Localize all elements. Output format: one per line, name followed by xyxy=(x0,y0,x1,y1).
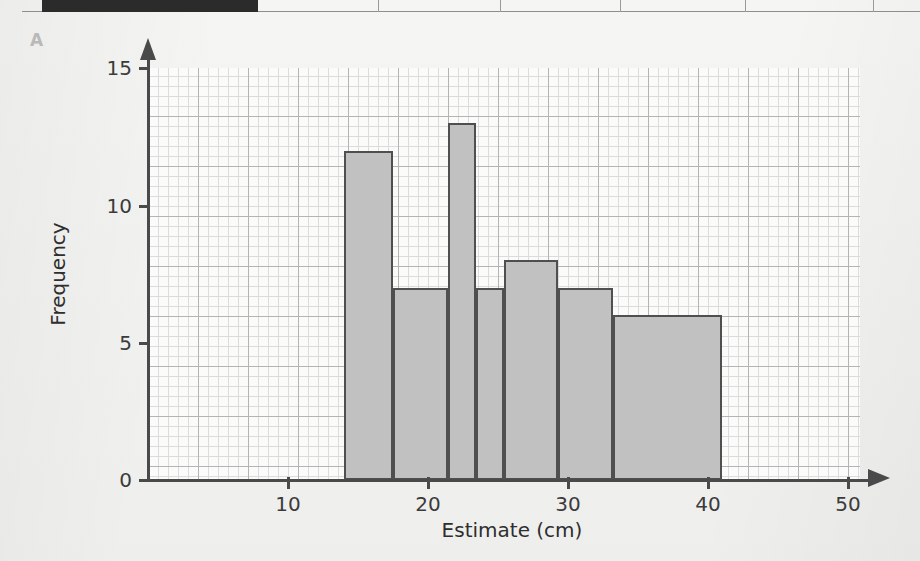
x-axis-title: Estimate (cm) xyxy=(442,518,583,542)
histogram-chart: 051015 1020304050 Frequency Estimate (cm… xyxy=(0,0,920,561)
y-tick-mark xyxy=(139,342,150,345)
x-tick-mark xyxy=(707,477,710,489)
x-tick-label: 10 xyxy=(275,492,300,516)
y-tick-label: 0 xyxy=(90,468,132,492)
y-axis-arrow-icon xyxy=(140,38,156,60)
histogram-bar xyxy=(344,151,393,480)
x-tick-mark xyxy=(287,477,290,489)
histogram-bar xyxy=(558,288,613,480)
histogram-bar xyxy=(448,123,476,480)
x-axis-line xyxy=(140,479,878,482)
x-tick-label: 40 xyxy=(695,492,720,516)
histogram-bar xyxy=(504,260,559,480)
x-tick-mark xyxy=(847,477,850,489)
x-tick-label: 50 xyxy=(835,492,860,516)
y-axis-title: Frequency xyxy=(46,222,70,325)
x-tick-label: 20 xyxy=(415,492,440,516)
histogram-bar xyxy=(613,315,722,480)
x-tick-label: 30 xyxy=(555,492,580,516)
y-tick-label: 15 xyxy=(90,56,132,80)
histogram-bar xyxy=(393,288,448,480)
y-tick-mark xyxy=(139,67,150,70)
x-axis-arrow-icon xyxy=(868,469,890,487)
histogram-bar xyxy=(476,288,504,480)
x-tick-mark xyxy=(427,477,430,489)
y-axis-line xyxy=(147,58,150,482)
y-tick-mark xyxy=(139,205,150,208)
y-tick-mark xyxy=(139,479,150,482)
x-axis-title-wrap: Estimate (cm) xyxy=(442,518,583,542)
x-tick-mark xyxy=(567,477,570,489)
y-tick-label: 10 xyxy=(90,194,132,218)
y-axis-title-wrap: Frequency xyxy=(46,222,70,325)
y-tick-label: 5 xyxy=(90,331,132,355)
